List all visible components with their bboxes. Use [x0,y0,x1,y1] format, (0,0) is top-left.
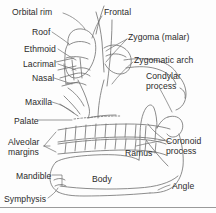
frontal-bone-outline [96,6,112,86]
label-nasal: Nasal [32,74,54,84]
label-orbital-rim: Orbital rim [12,8,52,18]
label-coronoid-process: Coronoid process [166,136,201,156]
label-body: Body [92,175,112,185]
label-ramus: Ramus [125,149,152,159]
label-ethmoid: Ethmoid [24,45,56,55]
label-angle: Angle [172,182,194,192]
anatomical-figure: Orbital rim Frontal Roof Zygoma (malar) … [0,0,216,213]
bottom-rule [0,207,216,208]
label-symphysis: Symphysis [4,195,46,205]
maxilla-outline [60,80,116,118]
label-mandible: Mandible [16,172,51,182]
orbit-outline [65,29,96,78]
label-condylar-process: Condylar process [146,71,181,91]
label-zygoma-malar: Zygoma (malar) [128,33,189,43]
label-maxilla: Maxilla [25,98,52,108]
label-lacrimal: Lacrimal [23,60,56,70]
label-zygomatic-arch: Zygomatic arch [134,56,193,66]
ethmoid-lacrimal-nasal-detail [56,58,90,86]
label-roof: Roof [32,28,50,38]
label-frontal: Frontal [104,8,131,18]
label-palate: Palate [14,117,39,127]
label-alveolar-margins: Alveolar margins [8,137,39,157]
